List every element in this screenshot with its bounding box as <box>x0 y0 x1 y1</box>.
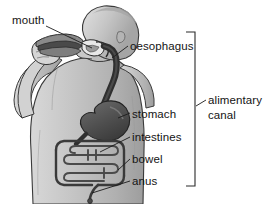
label-anus: anus <box>132 175 157 187</box>
sandwich-bottom <box>40 47 81 57</box>
digestive-system-figure: mouth oesophagus stomach intestines bowe… <box>0 0 276 204</box>
leader-alimentary <box>196 100 206 106</box>
alimentary-canal-bracket <box>186 32 195 186</box>
label-intestines: intestines <box>132 131 182 143</box>
anus-point <box>88 199 93 204</box>
label-stomach: stomach <box>132 108 176 120</box>
sandwich <box>36 34 84 57</box>
label-alimentary-canal-line2: canal <box>208 109 236 121</box>
label-oesophagus: oesophagus <box>130 40 194 52</box>
label-mouth: mouth <box>12 14 44 26</box>
label-alimentary-canal-line1: alimentary <box>208 94 262 106</box>
label-bowel: bowel <box>132 153 163 165</box>
